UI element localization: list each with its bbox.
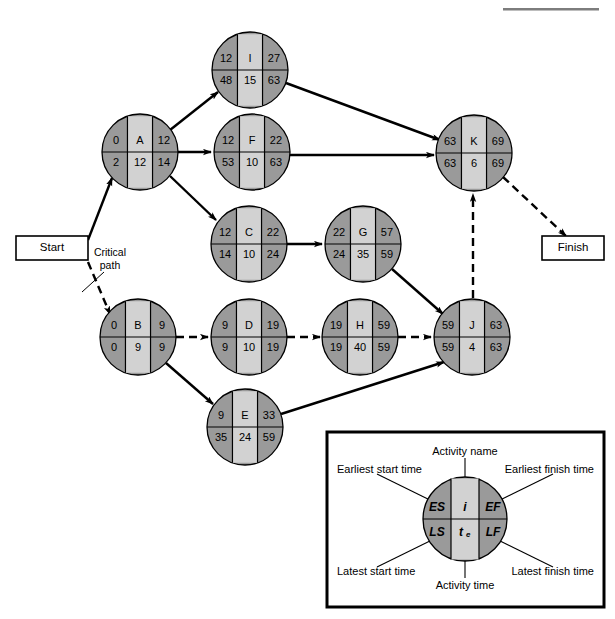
node-earliest-finish: 22	[267, 226, 279, 238]
legend-cell-lf: LF	[486, 525, 501, 539]
activity-node-I[interactable]: 12I27481563	[212, 32, 288, 108]
node-earliest-start: 12	[222, 134, 234, 146]
node-earliest-start: 19	[330, 319, 342, 331]
node-latest-start: 2	[113, 156, 119, 168]
node-latest-finish: 63	[268, 74, 280, 86]
node-latest-start: 59	[442, 341, 454, 353]
node-earliest-start: 9	[218, 409, 224, 421]
legend-cell-te-subscript: e	[466, 530, 471, 539]
terminal-label: Finish	[558, 241, 589, 253]
node-earliest-finish: 19	[267, 319, 279, 331]
legend-panel: ES i EF LS t e LF Activity name Activity…	[327, 432, 604, 607]
network-diagram-canvas: 12I274815630A122121412F2253106363K696366…	[0, 0, 615, 619]
edge-a-c	[170, 176, 216, 220]
node-earliest-start: 12	[219, 226, 231, 238]
node-earliest-start: 12	[220, 52, 232, 64]
node-latest-start: 0	[111, 341, 117, 353]
node-activity-time: 15	[244, 74, 256, 86]
node-earliest-finish: 59	[378, 319, 390, 331]
legend-cell-es: ES	[429, 500, 445, 514]
activity-node-F[interactable]: 12F22531063	[214, 114, 290, 190]
node-earliest-finish: 12	[158, 134, 170, 146]
node-activity-time: 10	[243, 341, 255, 353]
node-activity-time: 4	[469, 341, 475, 353]
node-earliest-start: 59	[442, 319, 454, 331]
node-activity-time: 9	[135, 341, 141, 353]
node-earliest-start: 63	[444, 135, 456, 147]
terminal-start[interactable]: Start	[16, 236, 88, 260]
node-activity-time: 10	[246, 156, 258, 168]
node-activity-name: E	[241, 409, 248, 421]
activity-node-J[interactable]: 59J6359463	[434, 299, 510, 375]
node-activity-name: A	[136, 134, 144, 146]
node-latest-finish: 14	[158, 156, 170, 168]
activity-node-K[interactable]: 63K6963669	[436, 115, 512, 191]
critical-path-annotation: Critical path	[94, 246, 126, 271]
terminal-label: Start	[40, 241, 65, 253]
node-latest-start: 63	[444, 157, 456, 169]
legend-cell-ls: LS	[429, 525, 444, 539]
page-rule-artifact	[503, 8, 599, 11]
node-activity-time: 12	[134, 156, 146, 168]
node-earliest-start: 22	[333, 226, 345, 238]
legend-label-activity-name: Activity name	[432, 445, 497, 457]
legend-label-earliest-finish: Earliest finish time	[505, 463, 594, 475]
node-activity-time: 35	[357, 248, 369, 260]
activity-node-E[interactable]: 9E33352459	[207, 389, 283, 465]
node-latest-finish: 24	[267, 248, 279, 260]
node-activity-name: K	[470, 135, 478, 147]
node-latest-start: 14	[219, 248, 231, 260]
node-latest-finish: 59	[263, 431, 275, 443]
node-earliest-finish: 57	[381, 226, 393, 238]
edge-g-j	[392, 269, 443, 314]
network-diagram-svg: 12I274815630A122121412F2253106363K696366…	[0, 0, 615, 619]
edge-start-a	[88, 178, 112, 240]
node-activity-name: I	[248, 52, 251, 64]
node-activity-time: 40	[354, 341, 366, 353]
activity-node-H[interactable]: 19H59194059	[322, 299, 398, 375]
legend-label-latest-finish: Latest finish time	[511, 565, 594, 577]
node-earliest-finish: 69	[492, 135, 504, 147]
critical-path-label-line1: Critical	[94, 246, 126, 258]
node-activity-time: 10	[243, 248, 255, 260]
activity-node-B[interactable]: 0B9099	[100, 299, 176, 375]
node-latest-start: 9	[222, 341, 228, 353]
node-activity-name: D	[245, 319, 253, 331]
node-earliest-finish: 33	[263, 409, 275, 421]
node-latest-finish: 59	[378, 341, 390, 353]
node-layer: 12I274815630A122121412F2253106363K696366…	[100, 32, 512, 465]
node-earliest-finish: 22	[270, 134, 282, 146]
node-activity-time: 6	[471, 157, 477, 169]
node-activity-name: B	[134, 319, 141, 331]
node-latest-finish: 59	[381, 248, 393, 260]
node-latest-start: 53	[222, 156, 234, 168]
activity-node-D[interactable]: 9D1991019	[211, 299, 287, 375]
node-earliest-start: 0	[113, 134, 119, 146]
legend-cell-ef: EF	[485, 500, 501, 514]
node-earliest-start: 9	[222, 319, 228, 331]
node-latest-finish: 63	[490, 341, 502, 353]
activity-node-C[interactable]: 12C22141024	[211, 206, 287, 282]
activity-node-A[interactable]: 0A1221214	[102, 114, 178, 190]
node-activity-name: G	[359, 226, 368, 238]
node-earliest-finish: 27	[268, 52, 280, 64]
edge-b-e	[166, 363, 213, 404]
edge-a-i	[170, 92, 218, 130]
node-latest-start: 24	[333, 248, 345, 260]
legend-label-earliest-start: Earliest start time	[337, 463, 422, 475]
node-activity-name: H	[356, 319, 364, 331]
node-activity-name: C	[245, 226, 253, 238]
node-latest-finish: 19	[267, 341, 279, 353]
critical-path-label-line2: path	[100, 259, 121, 271]
node-earliest-finish: 9	[159, 319, 165, 331]
activity-node-G[interactable]: 22G57243559	[325, 206, 401, 282]
terminal-finish[interactable]: Finish	[542, 236, 604, 260]
legend-node: ES i EF LS t e LF	[423, 477, 507, 561]
edge-i-k	[286, 83, 440, 140]
node-latest-finish: 63	[270, 156, 282, 168]
node-latest-start: 35	[215, 431, 227, 443]
node-earliest-start: 0	[111, 319, 117, 331]
node-activity-name: F	[249, 134, 256, 146]
legend-label-latest-start: Latest start time	[337, 565, 415, 577]
node-activity-time: 24	[239, 431, 251, 443]
